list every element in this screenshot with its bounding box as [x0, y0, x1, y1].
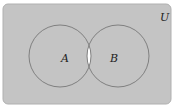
venn-diagram: U A B [0, 0, 174, 112]
set-a-label: A [60, 52, 69, 65]
set-b-label: B [109, 52, 118, 65]
universe-label: U [160, 11, 170, 24]
